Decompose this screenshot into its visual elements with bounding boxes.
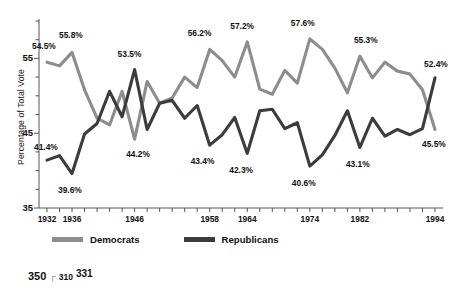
value-label-41-4: 41.4% [34,142,58,152]
x-tick-1964: 1964 [230,214,264,224]
legend-item-republicans: Republicans [184,234,279,245]
fragment-axis-bracket-icon: ┌ [49,271,55,282]
x-tick-1946: 1946 [118,214,152,224]
legend-label-democrats: Democrats [90,234,140,245]
legend-item-democrats: Democrats [52,234,140,245]
value-label-57-2: 57.2% [230,21,254,31]
x-tick-1958: 1958 [193,214,227,224]
x-tick-1994: 1994 [418,214,449,224]
value-label-45-5: 45.5% [422,139,446,149]
value-label-43-1: 43.1% [346,159,370,169]
chart-legend: Democrats Republicans [52,234,315,245]
next-chart-fragment: 350 ┌ 310 331 [28,268,93,282]
value-label-55-3: 55.3% [354,35,378,45]
value-label-53-5: 53.5% [118,49,142,59]
x-tick-1982: 1982 [343,214,377,224]
value-label-55-8: 55.8% [59,30,83,40]
value-label-42-3: 42.3% [229,165,253,175]
value-label-56-2: 56.2% [188,28,212,38]
legend-swatch-republicans [184,237,215,242]
legend-swatch-democrats [52,237,83,242]
value-label-43-4: 43.4% [191,156,215,166]
value-label-44-2: 44.2% [126,149,150,159]
fragment-value-310: 310 [59,272,73,282]
value-label-52-4: 52.4% [424,59,448,69]
value-label-57-6: 57.6% [291,18,315,28]
legend-label-republicans: Republicans [222,234,279,245]
y-tick-35: 35 [11,202,33,213]
y-tick-55: 55 [11,52,33,63]
value-label-39-6: 39.6% [58,185,82,195]
fragment-value-350: 350 [28,270,46,282]
x-tick-1974: 1974 [293,214,327,224]
value-label-40-6: 40.6% [292,178,316,188]
value-label-54-5: 54.5% [32,41,56,51]
y-tick-45: 45 [11,127,33,138]
fragment-value-331: 331 [76,268,93,282]
x-tick-1936: 1936 [55,214,89,224]
chart-container: Percentage of Total Vote 354555 19321936… [0,0,449,288]
